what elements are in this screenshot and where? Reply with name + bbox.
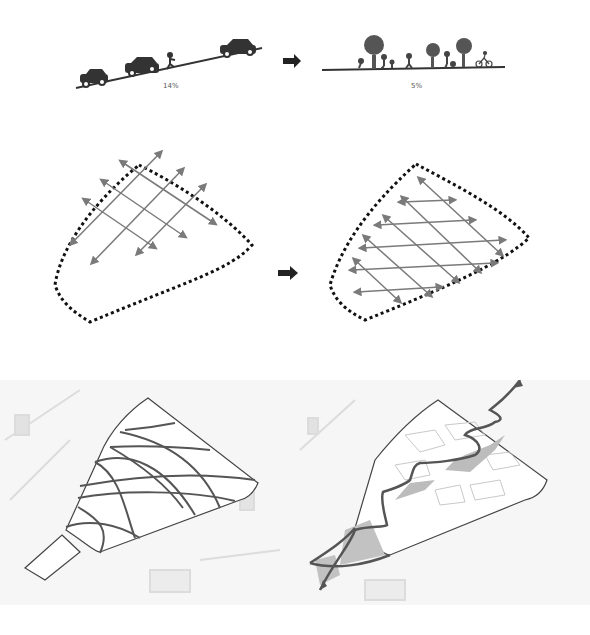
slope-diagram-right: 5% [295, 0, 590, 110]
grid-diagram-right [295, 110, 590, 340]
cyclist-icon [476, 52, 492, 68]
person-sitting-icon [359, 59, 363, 68]
slope-pedestrian-illustration [295, 0, 590, 110]
person-with-stroller-icon [445, 52, 455, 68]
slope-label-14: 14% [163, 82, 179, 90]
zigzag-path-map [295, 380, 590, 605]
slope-label-5: 5% [411, 82, 422, 90]
car-icon [220, 39, 256, 57]
site-plan-left [0, 380, 295, 605]
tree-icon [364, 35, 384, 68]
tree-icon [456, 38, 472, 67]
tree-icon [426, 43, 440, 67]
slope-diagram-left: 14% [0, 0, 295, 110]
curved-movement-map [0, 380, 295, 605]
pedestrian-icon [406, 54, 412, 68]
child-icon [391, 61, 394, 69]
site-plan-right [295, 380, 590, 605]
grid-diagram-left [0, 110, 295, 340]
reoriented-arrow-grid [295, 110, 590, 340]
slope-cars-illustration [0, 0, 295, 110]
diagonal-arrow-grid [0, 110, 295, 340]
pedestrian-icon [381, 55, 386, 69]
